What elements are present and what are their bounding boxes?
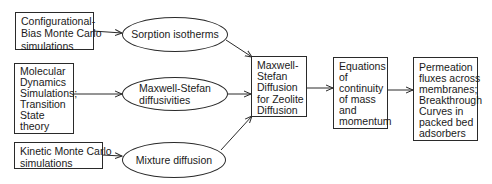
node-text: Diffusion xyxy=(257,105,306,116)
node-text: simulations xyxy=(20,157,102,169)
node-text: Configurational- xyxy=(21,15,93,27)
node-text: Maxwell-Stefan xyxy=(139,82,211,94)
node-molecular-dynamics: Molecular Dynamics Simulations; Transiti… xyxy=(14,63,74,134)
node-text: Sorption isotherms xyxy=(131,28,219,40)
node-text: Bias Monte Carlo xyxy=(21,27,93,39)
node-configurational-bias-monte-carlo: Configurational- Bias Monte Carlo simula… xyxy=(15,12,94,50)
node-text: Diffusion xyxy=(257,82,306,93)
node-permeation-fluxes: Permeation fluxes across membranes; Brea… xyxy=(413,57,478,141)
node-text: Mixture diffusion xyxy=(136,154,212,166)
node-text: diffusivities xyxy=(139,94,211,106)
arrow-sorption-to-core xyxy=(226,40,252,57)
node-maxwell-stefan-zeolite-diffusion: Maxwell- Stefan Diffusion for Zeolite Di… xyxy=(251,56,307,117)
node-text: momentum xyxy=(339,116,387,127)
node-equations-of-continuity: Equations of continuity of mass and mome… xyxy=(333,57,388,129)
node-mixture-diffusion: Mixture diffusion xyxy=(122,142,226,178)
node-text: simulations xyxy=(21,40,93,52)
node-text: theory xyxy=(20,121,73,132)
node-kinetic-monte-carlo: Kinetic Monte Carlo simulations xyxy=(14,142,103,169)
arrow-mixture-to-core xyxy=(221,116,252,150)
node-sorption-isotherms: Sorption isotherms xyxy=(122,17,228,52)
node-maxwell-stefan-diffusivities: Maxwell-Stefan diffusivities xyxy=(122,77,228,111)
node-text: Kinetic Monte Carlo xyxy=(20,145,102,157)
node-text: adsorbers xyxy=(419,128,477,139)
